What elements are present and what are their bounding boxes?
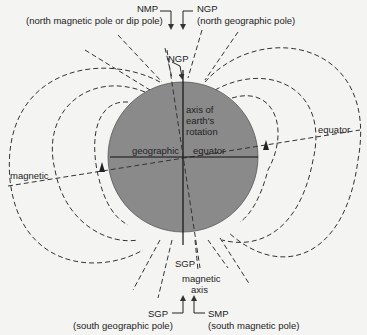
magnetic-field-diagram: NMP (north magnetic pole or dip pole) NG… xyxy=(0,0,367,335)
ngp-inner-label: NGP xyxy=(168,53,189,64)
ngp-description: (north geographic pole) xyxy=(197,15,295,26)
sgp-inner-label: SGP xyxy=(175,258,195,269)
geographic-label: geographic xyxy=(132,145,179,156)
equator-outer-label: equator xyxy=(318,124,350,135)
sgp-bottom-label: SGP xyxy=(148,308,168,319)
nmp-label: NMP xyxy=(137,3,158,14)
axis-label-2: earth's xyxy=(186,115,214,126)
axis-label-1: axis of xyxy=(186,104,213,115)
equator-inner-label: equator xyxy=(193,145,225,156)
axis-label-3: rotation xyxy=(186,126,218,137)
magnetic-axis-label-1: magnetic xyxy=(182,273,221,284)
ngp-top-label: NGP xyxy=(197,3,218,14)
sgp-description: (south geographic pole) xyxy=(73,320,173,331)
smp-label: SMP xyxy=(208,308,229,319)
magnetic-axis-label-2: axis xyxy=(191,284,208,295)
diagram-graphics xyxy=(0,0,367,335)
nmp-description: (north magnetic pole or dip pole) xyxy=(26,15,163,26)
smp-description: (south magnetic pole) xyxy=(208,320,299,331)
magnetic-label: magnetic xyxy=(10,170,49,181)
